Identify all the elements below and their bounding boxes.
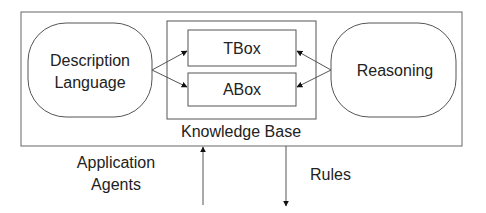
knowledge-base-node: TBox ABox Knowledge Base <box>167 21 316 140</box>
knowledge-base-diagram: Description Language Reasoning TBox ABox… <box>0 0 486 213</box>
description-language-node: Description Language <box>28 23 152 117</box>
reasoning-label: Reasoning <box>357 62 434 79</box>
rules-label: Rules <box>310 166 351 183</box>
application-agents-label-line2: Agents <box>91 176 141 193</box>
application-agents-label-line1: Application <box>77 154 155 171</box>
reasoning-node: Reasoning <box>331 23 456 117</box>
description-language-label-line2: Language <box>54 74 125 91</box>
abox-label: ABox <box>223 81 261 98</box>
tbox-label: TBox <box>223 40 260 57</box>
description-language-label-line1: Description <box>50 52 130 69</box>
knowledge-base-label: Knowledge Base <box>181 123 301 140</box>
